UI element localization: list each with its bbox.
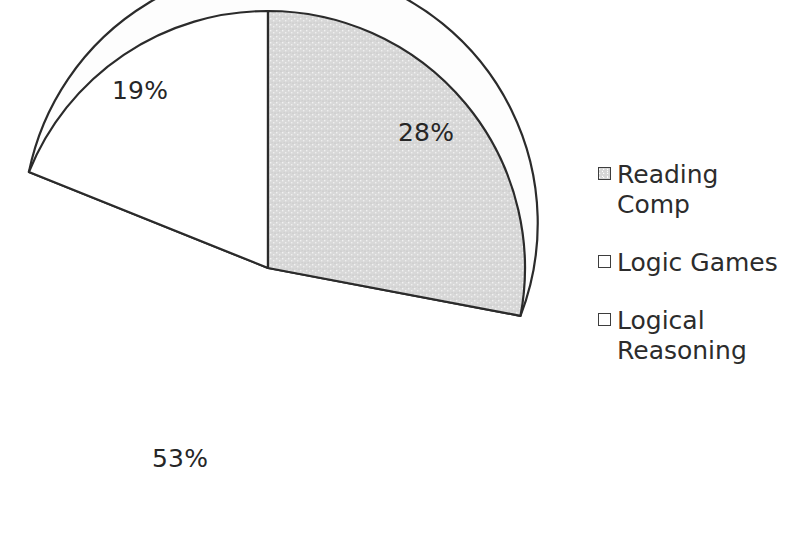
data-label-logic-games: 19%	[112, 76, 168, 105]
legend-label-logical-reasoning: Logical Reasoning	[617, 306, 747, 366]
legend-item-logical-reasoning[interactable]: Logical Reasoning	[598, 306, 797, 366]
legend-label-reading-comp: Reading Comp	[617, 160, 797, 220]
legend-swatch-icon-reading-comp	[598, 167, 611, 180]
data-label-reading-comp: 28%	[398, 118, 454, 147]
pie-chart-svg	[0, 0, 560, 533]
legend-item-logic-games[interactable]: Logic Games	[598, 248, 797, 278]
chart-legend: Reading Comp Logic Games Logical Reasoni…	[598, 160, 797, 394]
pie-slice-logic-games[interactable]	[29, 11, 268, 268]
chart-canvas: 28% 19% 53% Reading Comp Logic Games Log…	[0, 0, 797, 533]
legend-label-logic-games: Logic Games	[617, 248, 778, 278]
legend-swatch-icon-logical-reasoning	[598, 313, 611, 326]
pie-slice-reading-comp[interactable]	[268, 11, 525, 316]
data-label-logical-reasoning: 53%	[152, 444, 208, 473]
legend-item-reading-comp[interactable]: Reading Comp	[598, 160, 797, 220]
legend-swatch-icon-logic-games	[598, 255, 611, 268]
pie-plot-area: 28% 19% 53%	[0, 0, 560, 533]
